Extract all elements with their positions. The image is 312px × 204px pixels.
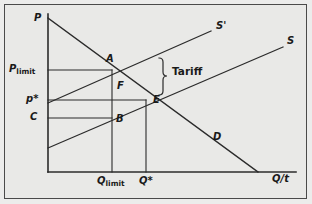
curve-label-supply-with-tariff: S' — [216, 21, 226, 31]
point-label-b: B — [116, 114, 124, 124]
curve-label-supply: S — [287, 36, 294, 46]
quantity-tick-q-limit: Qlimit — [97, 176, 125, 186]
point-label-e: E — [153, 95, 160, 105]
tariff-label: Tariff — [172, 66, 202, 77]
price-tick-c: C — [30, 112, 37, 122]
price-tick-p-limit: Plimit — [9, 64, 35, 74]
price-tick-p-star: p* — [26, 94, 38, 104]
supply-curve — [48, 47, 283, 148]
point-label-a: A — [106, 54, 114, 64]
point-label-f: F — [117, 81, 124, 91]
figure-container: P Q/t Plimit p* C Qlimit Q* D S' S A F B… — [0, 0, 312, 204]
curve-label-demand: D — [213, 132, 221, 142]
y-axis-label: P — [34, 13, 41, 23]
x-axis-label: Q/t — [272, 174, 289, 184]
tariff-brace-icon — [159, 58, 167, 95]
quantity-tick-q-star: Q* — [139, 176, 153, 186]
